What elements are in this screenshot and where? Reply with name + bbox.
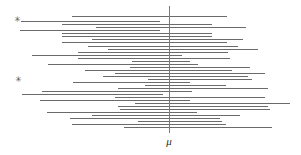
- confidence-interval-line: [62, 24, 212, 25]
- mu-axis-line: [169, 6, 170, 133]
- confidence-interval-line: [62, 42, 227, 43]
- confidence-interval-line: [132, 61, 190, 62]
- confidence-interval-line: [48, 64, 198, 65]
- confidence-interval-line: [115, 73, 265, 74]
- confidence-interval-line: [22, 94, 163, 95]
- confidence-interval-line: [138, 121, 222, 122]
- confidence-interval-line: [47, 112, 197, 113]
- miss-marker-lower: ✳: [14, 76, 23, 84]
- confidence-interval-line: [130, 67, 250, 68]
- confidence-interval-line: [92, 39, 243, 40]
- plot-area: ✳✳μ: [0, 0, 301, 155]
- confidence-interval-line: [78, 52, 228, 53]
- confidence-interval-figure: ✳✳μ: [0, 0, 301, 155]
- confidence-interval-line: [72, 16, 227, 17]
- confidence-interval-line: [42, 91, 192, 92]
- confidence-interval-line: [103, 76, 248, 77]
- confidence-interval-line: [124, 127, 272, 128]
- confidence-interval-line: [78, 58, 230, 59]
- confidence-interval-line: [135, 103, 290, 104]
- confidence-interval-line: [21, 21, 160, 22]
- confidence-interval-line: [70, 118, 220, 119]
- confidence-interval-line: [92, 115, 240, 116]
- confidence-interval-line: [40, 100, 190, 101]
- confidence-interval-line: [20, 30, 160, 31]
- confidence-interval-line: [72, 124, 226, 125]
- confidence-interval-line: [118, 88, 268, 89]
- confidence-interval-line: [62, 33, 212, 34]
- confidence-interval-line: [88, 46, 238, 47]
- confidence-interval-line: [85, 70, 232, 71]
- confidence-interval-line: [73, 82, 190, 83]
- miss-marker-upper: ✳: [13, 16, 22, 24]
- confidence-interval-line: [120, 109, 270, 110]
- confidence-interval-line: [108, 49, 258, 50]
- confidence-interval-line: [96, 27, 246, 28]
- confidence-interval-line: [145, 85, 226, 86]
- confidence-interval-line: [148, 79, 252, 80]
- mu-axis-label: μ: [162, 136, 176, 147]
- confidence-interval-line: [32, 55, 182, 56]
- confidence-interval-line: [118, 106, 268, 107]
- confidence-interval-line: [115, 97, 265, 98]
- confidence-interval-line: [62, 36, 212, 37]
